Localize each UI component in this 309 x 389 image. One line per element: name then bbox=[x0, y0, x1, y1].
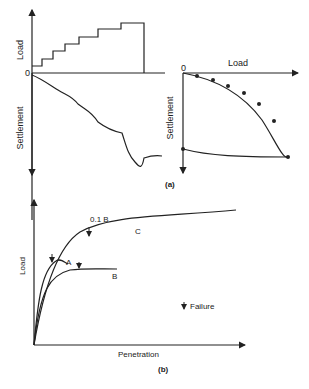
x-label-b: Penetration bbox=[118, 350, 159, 359]
caption-a: (a) bbox=[165, 180, 175, 189]
annotation-0-1B: 0.1 B bbox=[90, 215, 109, 224]
origin-label-left: 0 bbox=[25, 68, 30, 78]
legend-failure: Failure bbox=[190, 302, 215, 311]
label-A: A bbox=[66, 258, 72, 267]
load-settlement-curve bbox=[183, 73, 288, 157]
label-C: C bbox=[135, 227, 141, 236]
panel-a-right-chart bbox=[183, 73, 298, 173]
figure: 0 Load Settlement 0 Load Settlement (a) … bbox=[0, 0, 309, 389]
unload-curve bbox=[183, 149, 288, 157]
y-lower-label: Settlement bbox=[15, 106, 25, 150]
panel-a-left-chart bbox=[32, 10, 165, 220]
data-points bbox=[181, 74, 290, 159]
y-label-b: Load bbox=[18, 257, 27, 275]
right-x-label: Load bbox=[228, 58, 248, 68]
y-upper-label: Load bbox=[15, 40, 25, 60]
settlement-curve bbox=[32, 75, 162, 166]
load-steps bbox=[32, 23, 144, 73]
panel-b-chart bbox=[34, 200, 245, 345]
curve-B bbox=[34, 269, 117, 345]
label-B: B bbox=[112, 272, 117, 281]
origin-label-right: 0 bbox=[181, 63, 186, 73]
right-y-label: Settlement bbox=[165, 96, 175, 140]
caption-b: (b) bbox=[158, 365, 169, 374]
